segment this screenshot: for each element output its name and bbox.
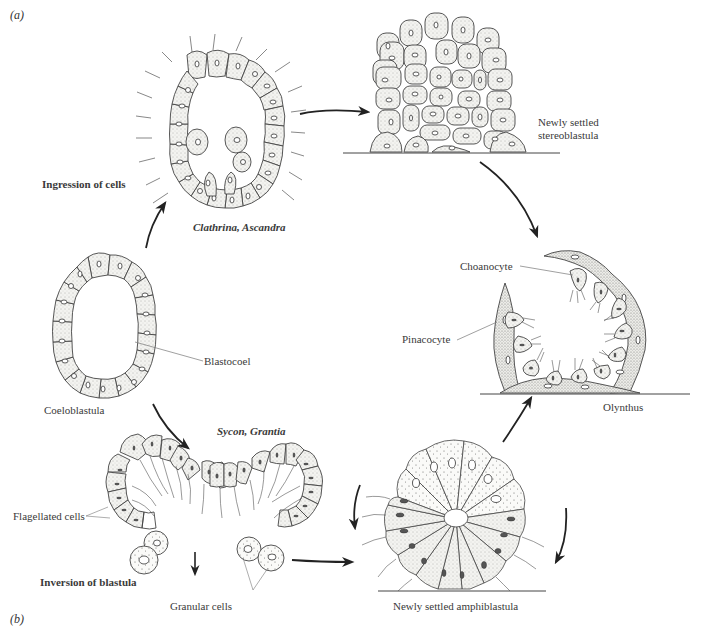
label-granular-cells: Granular cells xyxy=(170,600,232,613)
stereoblastula xyxy=(343,13,560,153)
arrow-to-clathrina xyxy=(146,203,165,248)
rotation-arrow-right xyxy=(556,508,566,562)
arrow-amphi-to-olynthus xyxy=(503,398,531,442)
arrow-to-olynthus xyxy=(480,162,537,236)
label-olynthus: Olynthus xyxy=(603,401,643,414)
label-sycon: Sycon, Grantia xyxy=(217,425,285,438)
amphiblastula xyxy=(362,440,546,591)
label-clathrina: Clathrina, Ascandra xyxy=(193,221,286,234)
label-stereoblastula-2: stereoblastula xyxy=(538,129,598,142)
diagram-canvas xyxy=(0,0,701,633)
panel-label-b: (b) xyxy=(10,612,24,627)
label-blastocoel: Blastocoel xyxy=(204,355,250,368)
panel-label-a: (a) xyxy=(10,8,24,23)
rotation-arrow-left xyxy=(354,485,360,528)
label-ingression: Ingression of cells xyxy=(42,178,126,191)
label-flagellated-cells: Flagellated cells xyxy=(13,510,85,523)
coeloblastula xyxy=(53,252,204,408)
clathrina-blastula xyxy=(136,34,306,208)
label-inversion: Inversion of blastula xyxy=(40,576,137,589)
sycon-blastula xyxy=(86,434,323,590)
label-pinacocyte: Pinacocyte xyxy=(402,333,450,346)
label-choanocyte: Choanocyte xyxy=(460,260,513,273)
sponge-development-diagram: (a) (b) Ingression of cells Clathrina, A… xyxy=(0,0,701,633)
arrow-to-stereoblastula xyxy=(300,110,368,114)
label-coeloblastula: Coeloblastula xyxy=(44,404,105,417)
label-amphiblastula: Newly settled amphiblastula xyxy=(393,600,518,613)
arrow-to-amphiblastula xyxy=(292,560,352,562)
label-stereoblastula-1: Newly settled xyxy=(538,116,599,129)
